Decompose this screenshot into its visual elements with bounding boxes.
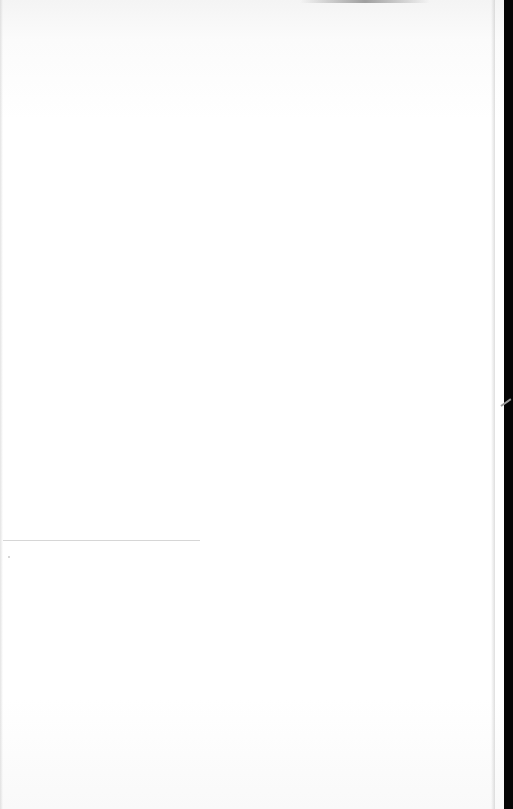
- faint-horizontal-rule: [3, 540, 200, 541]
- blank-page: [0, 0, 504, 809]
- scan-speck: [8, 556, 10, 558]
- page-left-edge-shadow: [0, 0, 3, 809]
- scanner-background-strip: [504, 0, 513, 809]
- page-top-shadow: [300, 0, 430, 3]
- page-right-edge-fade: [491, 0, 495, 809]
